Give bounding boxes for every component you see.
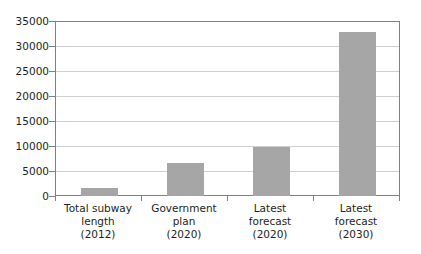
- bar-latest-forecast-2030: [339, 32, 376, 196]
- bar-total-subway-length-2012: [81, 188, 118, 197]
- x-tick-mark: [399, 196, 400, 201]
- x-tick-mark: [227, 196, 228, 201]
- x-tick-mark: [55, 196, 56, 201]
- x-tick-label-line: forecast: [227, 215, 313, 228]
- y-tick-label: 35000: [0, 16, 49, 27]
- x-tick-mark: [141, 196, 142, 201]
- x-tick-label-line: Government: [141, 202, 227, 215]
- bar-latest-forecast-2020: [253, 147, 290, 196]
- x-tick-label-line: (2012): [55, 228, 141, 241]
- bars-layer: [55, 21, 400, 196]
- bar-government-plan-2020: [167, 163, 204, 197]
- y-tick-label: 10000: [0, 141, 49, 152]
- x-tick-mark: [313, 196, 314, 201]
- y-tick-label: 15000: [0, 116, 49, 127]
- y-tick-label: 5000: [0, 166, 49, 177]
- x-tick-label-latest-forecast-2020: Latest forecast (2020): [227, 202, 313, 241]
- x-tick-label-line: Latest: [227, 202, 313, 215]
- x-tick-label-line: Total subway: [55, 202, 141, 215]
- y-axis-tick-labels: 35000 30000 25000 20000 15000 10000 5000…: [0, 0, 49, 254]
- x-tick-label-line: length: [55, 215, 141, 228]
- y-tick-label: 0: [0, 191, 49, 202]
- x-tick-label-latest-forecast-2030: Latest forecast (2030): [313, 202, 399, 241]
- x-tick-label-line: plan: [141, 215, 227, 228]
- y-tick-label: 20000: [0, 91, 49, 102]
- x-tick-label-line: (2020): [227, 228, 313, 241]
- x-tick-label-line: Latest: [313, 202, 399, 215]
- x-tick-label-line: (2030): [313, 228, 399, 241]
- y-tick-label: 30000: [0, 41, 49, 52]
- x-tick-label-government-plan: Government plan (2020): [141, 202, 227, 241]
- y-tick-label: 25000: [0, 66, 49, 77]
- x-tick-label-line: forecast: [313, 215, 399, 228]
- x-tick-label-line: (2020): [141, 228, 227, 241]
- x-tick-label-total-subway-length: Total subway length (2012): [55, 202, 141, 241]
- bar-chart-figure: 35000 30000 25000 20000 15000 10000 5000…: [0, 0, 421, 254]
